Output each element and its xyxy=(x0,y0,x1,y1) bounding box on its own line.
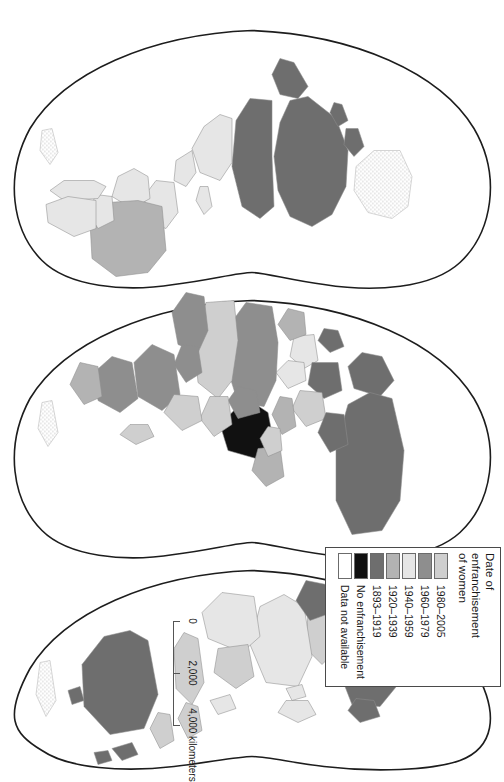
legend-item-label: 1893–1919 xyxy=(372,585,383,638)
legend-title: Date of enfranchisement of women xyxy=(456,553,497,683)
legend-swatch xyxy=(354,553,368,579)
scale-bar: 0 2,000 4,000 kilometers xyxy=(118,612,240,740)
legend-swatch xyxy=(386,553,400,579)
legend-swatch xyxy=(338,553,352,579)
map-lobe-americas xyxy=(14,30,490,288)
legend-item: No enfranchisement xyxy=(354,553,369,683)
legend-item: 1920–1939 xyxy=(386,553,401,683)
legend-swatch xyxy=(370,553,384,579)
legend-item-label: 1920–1939 xyxy=(388,585,399,638)
legend-items: 1980–20051960–19791940–19591920–19391893… xyxy=(338,553,449,683)
legend-item: 1940–1959 xyxy=(402,553,417,683)
legend-item: 1960–1979 xyxy=(418,553,433,683)
scale-tick-2000 xyxy=(173,673,180,674)
scale-tick-4000 xyxy=(173,725,180,726)
scale-label-2000: 2,000 xyxy=(187,660,198,685)
legend-item-label: Data not available xyxy=(340,585,351,669)
legend-swatch xyxy=(418,553,432,579)
legend-item: 1980–2005 xyxy=(434,553,449,683)
legend-item-label: 1940–1959 xyxy=(404,585,415,638)
legend-item-label: 1960–1979 xyxy=(420,585,431,638)
legend-item-label: No enfranchisement xyxy=(356,585,367,679)
scale-label-0: 0 xyxy=(187,618,198,624)
legend-item-label: 1980–2005 xyxy=(436,585,447,638)
legend-item: 1893–1919 xyxy=(370,553,385,683)
scale-label-4000-kilometers: 4,000 kilometers xyxy=(187,708,198,781)
legend: Date of enfranchisement of women 1980–20… xyxy=(325,547,501,687)
scale-tick-0 xyxy=(173,621,180,622)
legend-item: Data not available xyxy=(338,553,353,683)
legend-swatch xyxy=(434,553,448,579)
legend-swatch xyxy=(402,553,416,579)
map-lobe-eurafrica xyxy=(14,292,490,558)
